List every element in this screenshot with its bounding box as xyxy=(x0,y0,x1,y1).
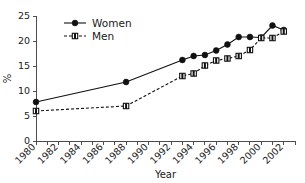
data-point-women-1980 xyxy=(33,99,39,105)
x-tick-label-group: 1994 xyxy=(170,141,195,166)
y-tick-label: 5 xyxy=(24,110,30,121)
y-axis-title-group: % xyxy=(2,74,13,84)
x-tick-label-group: 1980 xyxy=(13,141,38,166)
x-tick-label-group: 2000 xyxy=(238,141,263,166)
legend-marker-men-core xyxy=(74,33,76,38)
legend-marker-women xyxy=(72,20,78,26)
x-axis-title: Year xyxy=(154,169,177,180)
y-tick-label: 10 xyxy=(18,85,30,96)
x-tick-label-group: 1982 xyxy=(35,141,60,166)
x-tick-label: 1988 xyxy=(103,141,128,166)
data-point-men-1999-core xyxy=(249,47,251,52)
data-point-women-1998 xyxy=(236,34,242,40)
data-point-women-1993 xyxy=(179,57,185,63)
data-point-men-1980-core xyxy=(35,108,37,113)
x-tick-label: 1994 xyxy=(170,141,195,166)
x-tick-label: 1998 xyxy=(215,141,240,166)
x-tick-label-group: 1990 xyxy=(125,141,150,166)
x-tick-label: 1980 xyxy=(13,141,38,166)
legend-label-women: Women xyxy=(92,17,132,29)
x-tick-label: 1984 xyxy=(58,141,83,166)
x-tick-label-group: 1988 xyxy=(103,141,128,166)
y-axis-title: % xyxy=(2,74,13,84)
data-point-women-1997 xyxy=(225,42,231,48)
data-point-men-2002-core xyxy=(283,29,285,34)
data-point-men-1998-core xyxy=(238,53,240,58)
line-chart: 0510152025198019821984198619881990199219… xyxy=(0,0,305,183)
x-tick-label: 1982 xyxy=(35,141,60,166)
data-point-men-1997-core xyxy=(226,56,228,61)
series-line-men xyxy=(36,32,284,112)
x-tick-label: 1986 xyxy=(80,141,105,166)
data-point-men-1994-core xyxy=(193,71,195,76)
x-tick-label-group: 2002 xyxy=(260,141,285,166)
x-tick-label: 2000 xyxy=(238,141,263,166)
x-tick-label-group: 1984 xyxy=(58,141,83,166)
legend: WomenMen xyxy=(64,17,132,42)
data-point-men-1993-core xyxy=(181,73,183,78)
x-tick-label-group: 1998 xyxy=(215,141,240,166)
y-tick-label: 25 xyxy=(18,10,30,21)
series-women xyxy=(33,23,287,105)
data-point-women-1999 xyxy=(247,34,253,40)
series-men xyxy=(33,29,286,114)
x-tick-label: 1990 xyxy=(125,141,150,166)
data-point-men-1996-core xyxy=(215,58,217,63)
data-point-men-1988-core xyxy=(125,103,127,108)
x-tick-label-group: 1986 xyxy=(80,141,105,166)
data-point-women-1996 xyxy=(213,48,219,54)
data-point-men-2000-core xyxy=(260,35,262,40)
chart-container: 0510152025198019821984198619881990199219… xyxy=(0,0,305,183)
legend-label-men: Men xyxy=(92,30,114,42)
x-tick-label-group: 1992 xyxy=(148,141,173,166)
data-point-women-2001 xyxy=(270,23,276,29)
x-tick-label: 1992 xyxy=(148,141,173,166)
data-point-women-1988 xyxy=(123,79,129,85)
x-tick-label-group: 1996 xyxy=(193,141,218,166)
data-point-women-1994 xyxy=(191,53,197,59)
data-point-women-1995 xyxy=(202,52,208,58)
x-tick-label: 1996 xyxy=(193,141,218,166)
data-point-men-1995-core xyxy=(204,63,206,68)
x-tick-label: 2002 xyxy=(260,141,285,166)
data-point-men-2001-core xyxy=(271,35,273,40)
y-tick-label: 20 xyxy=(18,35,30,46)
y-tick-label: 15 xyxy=(18,60,30,71)
